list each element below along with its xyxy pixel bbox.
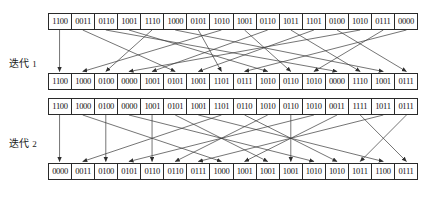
iteration1-edges <box>60 30 407 72</box>
iteration2-output-row: 0000001101000101011001100111100010011001… <box>48 163 418 180</box>
bit-block-cell: 1000 <box>72 99 95 114</box>
bit-block-cell: 1100 <box>49 14 72 29</box>
bit-block-cell: 0110 <box>257 14 280 29</box>
bit-block-cell: 0110 <box>95 14 118 29</box>
permutation-edge <box>198 115 383 162</box>
bit-block-cell: 1011 <box>280 14 303 29</box>
bit-block-cell: 1000 <box>164 14 187 29</box>
bit-block-cell: 0101 <box>187 14 210 29</box>
bit-block-cell: 0111 <box>234 74 257 89</box>
permutation-edge <box>129 115 314 162</box>
permutation-edge <box>129 30 360 72</box>
permutation-edge <box>175 115 268 162</box>
permutation-edge <box>198 30 314 72</box>
bit-block-cell: 1001 <box>187 74 210 89</box>
bit-block-cell: 1010 <box>303 164 326 179</box>
iteration2-label: 迭代 2 <box>9 135 37 150</box>
diagram-canvas: 1100001101101001111010000101101010010110… <box>0 0 427 201</box>
bit-block-cell: 1010 <box>257 74 280 89</box>
permutation-edge <box>83 30 222 72</box>
bit-block-cell: 0111 <box>187 164 210 179</box>
bit-block-cell: 1010 <box>257 99 280 114</box>
permutation-edge <box>245 30 407 72</box>
permutation-edge <box>83 115 222 162</box>
permutation-edge <box>152 30 268 72</box>
bit-block-cell: 0110 <box>141 164 164 179</box>
bit-block-cell: 0101 <box>164 99 187 114</box>
bit-block-cell: 1011 <box>372 99 395 114</box>
bit-block-cell: 0100 <box>326 14 349 29</box>
permutation-edge <box>175 115 268 162</box>
bit-block-cell: 0110 <box>164 164 187 179</box>
bit-block-cell: 0011 <box>72 164 95 179</box>
bit-block-cell: 1001 <box>234 164 257 179</box>
permutation-edge <box>198 30 221 72</box>
bit-block-cell: 1001 <box>372 74 395 89</box>
permutation-edge <box>291 30 360 72</box>
permutation-edge <box>198 115 383 162</box>
bit-block-cell: 0000 <box>49 164 72 179</box>
bit-block-cell: 0011 <box>72 14 95 29</box>
bit-block-cell: 1001 <box>141 74 164 89</box>
bit-block-cell: 0111 <box>395 99 417 114</box>
input-row: 1100001101101001111010000101101010010110… <box>48 13 418 30</box>
bit-block-cell: 1011 <box>349 164 372 179</box>
permutation-edge <box>175 30 383 72</box>
bit-block-cell: 1001 <box>257 164 280 179</box>
bit-block-cell: 1101 <box>303 14 326 29</box>
bit-block-cell: 0110 <box>234 99 257 114</box>
bit-block-cell: 1000 <box>72 74 95 89</box>
bit-block-cell: 1001 <box>187 99 210 114</box>
bit-block-cell: 0000 <box>118 74 141 89</box>
iteration1-label-text: 迭代 <box>9 58 29 69</box>
bit-block-cell: 0110 <box>280 74 303 89</box>
bit-block-cell: 0111 <box>372 14 395 29</box>
iteration2-label-text: 迭代 <box>9 138 29 149</box>
bit-block-cell: 1101 <box>210 99 233 114</box>
bit-block-cell: 1110 <box>349 74 372 89</box>
bit-block-cell: 1001 <box>118 14 141 29</box>
bit-block-cell: 1001 <box>234 14 257 29</box>
iteration1-label: 迭代 1 <box>9 55 37 70</box>
bit-block-cell: 0000 <box>395 14 417 29</box>
permutation-edge <box>83 115 222 162</box>
iteration2-edges <box>60 115 407 162</box>
permutation-edge <box>83 30 176 72</box>
permutation-edge <box>106 30 337 72</box>
bit-block-cell: 1010 <box>326 164 349 179</box>
bit-block-cell: 0100 <box>95 74 118 89</box>
bit-block-cell: 0000 <box>118 99 141 114</box>
iteration1-output-row: 1100100001000000100101011001110101111010… <box>48 73 418 90</box>
permutation-edge <box>314 30 383 72</box>
permutation-edge <box>129 115 314 162</box>
bit-block-cell: 1001 <box>280 164 303 179</box>
permutation-edge <box>245 30 291 72</box>
bit-block-cell: 1000 <box>210 164 233 179</box>
permutation-edge <box>245 115 338 162</box>
bit-block-cell: 0110 <box>280 99 303 114</box>
bit-block-cell: 0100 <box>95 99 118 114</box>
bit-block-cell: 1100 <box>49 74 72 89</box>
bit-block-cell: 1010 <box>303 74 326 89</box>
bit-block-cell: 0111 <box>395 74 417 89</box>
bit-block-cell: 0100 <box>95 164 118 179</box>
bit-block-cell: 1110 <box>141 14 164 29</box>
bit-block-cell: 0101 <box>118 164 141 179</box>
bit-block-cell: 1100 <box>372 164 395 179</box>
permutation-edge <box>360 115 406 162</box>
bit-block-cell: 0111 <box>395 164 417 179</box>
iteration2-input-row: 1100100001000000100101011001110101101010… <box>48 98 418 115</box>
permutation-edge <box>245 115 338 162</box>
bit-block-cell: 1010 <box>210 14 233 29</box>
bit-block-cell: 1100 <box>49 99 72 114</box>
bit-block-cell: 1101 <box>210 74 233 89</box>
bit-block-cell: 0011 <box>326 99 349 114</box>
permutation-edge <box>106 30 152 72</box>
bit-block-cell: 1010 <box>303 99 326 114</box>
bit-block-cell: 1111 <box>349 99 372 114</box>
bit-block-cell: 0000 <box>326 74 349 89</box>
permutation-edge <box>337 30 406 72</box>
permutation-edge <box>360 115 406 162</box>
bit-block-cell: 0101 <box>164 74 187 89</box>
iteration1-label-number: 1 <box>32 59 37 69</box>
